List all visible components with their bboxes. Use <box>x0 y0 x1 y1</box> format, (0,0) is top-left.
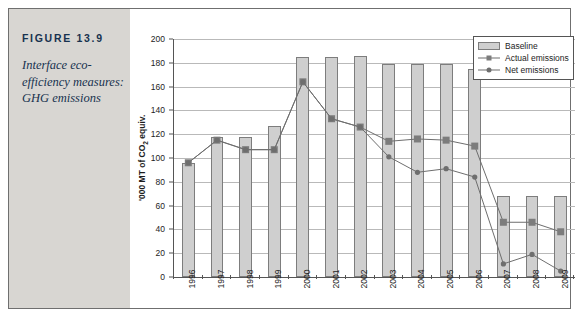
x-axis-tick-mark <box>173 275 174 279</box>
data-point-1997 <box>214 138 219 143</box>
data-point-1996 <box>186 160 191 165</box>
y-axis-tick-label: 60 <box>156 201 165 211</box>
data-point-2004 <box>415 170 420 175</box>
x-axis-tick-label: 1999 <box>273 270 283 289</box>
data-point-2008 <box>529 219 536 226</box>
x-axis-tick-label: 2000 <box>302 270 312 289</box>
x-axis-tick-label: 2005 <box>445 270 455 289</box>
x-axis-tick-mark <box>431 275 432 279</box>
y-axis-tick-label: 140 <box>151 105 165 115</box>
x-axis-tick-mark <box>402 275 403 279</box>
legend-circle-marker-icon <box>487 67 492 72</box>
y-axis-tick-labels: 020406080100120140160180200 <box>130 39 173 277</box>
x-axis-tick-label: 2002 <box>359 270 369 289</box>
data-point-2000 <box>300 79 305 84</box>
data-point-2003 <box>385 138 392 145</box>
x-axis-tick-mark <box>545 275 546 279</box>
x-axis-tick-mark <box>316 275 317 279</box>
x-axis-tick-mark <box>573 275 574 279</box>
legend-item-baseline: Baseline <box>478 40 569 51</box>
x-axis-tick-mark <box>259 275 260 279</box>
legend-line-marker-icon <box>478 53 500 62</box>
legend-item-actual-emissions: Actual emissions <box>478 52 569 63</box>
series-line <box>188 82 560 232</box>
y-axis-tick-label: 80 <box>156 177 165 187</box>
data-point-2005 <box>443 137 450 144</box>
legend-line-marker-icon <box>478 65 500 74</box>
data-point-2001 <box>329 116 334 121</box>
y-axis-tick-label: 120 <box>151 129 165 139</box>
x-axis-tick-label: 2008 <box>531 270 541 289</box>
series-line <box>188 82 560 271</box>
chart-area: '000 MT of CO2 equiv. 020406080100120140… <box>130 9 570 308</box>
data-point-2004 <box>414 135 421 142</box>
x-axis-tick-labels: 1996199719981999200020012002200320042005… <box>173 279 574 311</box>
legend-item-net-emissions: Net emissions <box>478 64 569 75</box>
legend-square-marker-icon <box>487 55 492 60</box>
data-point-2008 <box>529 252 534 257</box>
x-axis-tick-mark <box>459 275 460 279</box>
data-point-1998 <box>243 147 248 152</box>
legend-label: Baseline <box>505 41 538 51</box>
x-axis-tick-label: 2001 <box>331 270 341 289</box>
figure-frame: FIGURE 13.9 Interface eco-efficiency mea… <box>8 8 571 309</box>
figure-number: FIGURE 13.9 <box>22 32 104 44</box>
series-actual-emissions <box>185 78 564 235</box>
x-axis-tick-label: 2006 <box>474 270 484 289</box>
data-point-2007 <box>500 219 507 226</box>
x-axis-tick-mark <box>288 275 289 279</box>
y-axis-tick-label: 100 <box>151 153 165 163</box>
y-axis-tick-label: 0 <box>160 272 165 282</box>
gridline <box>174 277 575 278</box>
data-point-2006 <box>472 174 477 179</box>
chart-legend: BaselineActual emissionsNet emissions <box>473 36 574 80</box>
x-axis-tick-label: 1998 <box>245 270 255 289</box>
x-axis-tick-mark <box>517 275 518 279</box>
data-point-2007 <box>501 261 506 266</box>
x-axis-tick-mark <box>488 275 489 279</box>
legend-swatch-bar-icon <box>478 42 500 50</box>
y-axis-tick-label: 180 <box>151 58 165 68</box>
x-axis-tick-label: 2004 <box>416 270 426 289</box>
data-point-2005 <box>444 166 449 171</box>
data-point-2009 <box>557 228 564 235</box>
x-axis-tick-label: 2003 <box>388 270 398 289</box>
data-point-2003 <box>386 154 391 159</box>
data-point-1999 <box>272 147 277 152</box>
y-axis-tick-label: 20 <box>156 248 165 258</box>
x-axis-tick-mark <box>374 275 375 279</box>
series-net-emissions <box>186 79 564 273</box>
figure-caption-text: Interface eco-efficiency measures: GHG e… <box>22 57 126 107</box>
y-axis-tick-label: 200 <box>151 34 165 44</box>
data-point-2002 <box>358 124 363 129</box>
legend-label: Net emissions <box>505 65 558 75</box>
x-axis-tick-label: 1997 <box>216 270 226 289</box>
x-axis-tick-mark <box>230 275 231 279</box>
x-axis-tick-mark <box>345 275 346 279</box>
x-axis-tick-label: 1996 <box>187 270 197 289</box>
x-axis-tick-label: 2007 <box>502 270 512 289</box>
x-axis-tick-mark <box>202 275 203 279</box>
y-axis-tick-label: 40 <box>156 224 165 234</box>
data-point-2006 <box>471 143 478 150</box>
x-axis-tick-label: 2009 <box>560 270 570 289</box>
legend-label: Actual emissions <box>505 53 569 63</box>
y-axis-tick-label: 160 <box>151 82 165 92</box>
figure-caption-panel: FIGURE 13.9 Interface eco-efficiency mea… <box>9 9 130 308</box>
